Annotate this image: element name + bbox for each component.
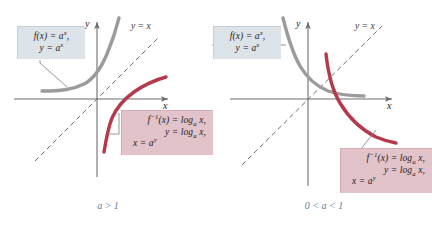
- y-axis-right: [305, 22, 311, 186]
- callout-logarithmic-right: f−1(x) = loga x, y = loga x, x = ay: [340, 148, 432, 193]
- x-axis-left: [14, 96, 168, 102]
- callout-log-line3-right: x = ay: [348, 176, 425, 188]
- panel-a-between-0-and-1: y x y = x f(x) = ax, y = ax f−1(x) = log…: [216, 0, 432, 238]
- callout-log-line1-right: f−1(x) = loga x,: [348, 153, 425, 165]
- exponential-curve-right: [283, 18, 364, 96]
- callout-exponential-right: f(x) = ax, y = ax: [213, 26, 281, 59]
- caption-right: 0 < a < 1: [216, 200, 432, 211]
- leader-line-exp-left: [40, 60, 67, 87]
- callout-exp-line1-right: f(x) = ax,: [221, 31, 274, 43]
- callout-exp-line2-right: y = ax: [221, 43, 274, 55]
- y-axis-label-left: y: [85, 18, 89, 29]
- caption-left: a > 1: [0, 200, 216, 211]
- callout-log-line3-left: x = ay: [129, 138, 206, 150]
- panel-a-greater-than-1: y x y = x f(x) = ax, y = ax f−1(x) = log…: [0, 0, 216, 238]
- callout-exp-line1-left: f(x) = ax,: [25, 31, 78, 43]
- identity-line-label-right: y = x: [355, 21, 375, 31]
- callout-exp-line2-left: y = ax: [25, 43, 78, 55]
- callout-log-line2-left: y = loga x,: [129, 127, 206, 139]
- callout-log-line1-left: f−1(x) = loga x,: [129, 115, 206, 127]
- identity-line-label-left: y = x: [131, 21, 151, 31]
- callout-logarithmic-left: f−1(x) = loga x, y = loga x, x = ay: [121, 110, 213, 155]
- inverse-functions-figure: y x y = x f(x) = ax, y = ax f−1(x) = log…: [0, 0, 432, 238]
- x-axis-label-right: x: [387, 100, 391, 111]
- y-axis-label-right: y: [296, 18, 300, 29]
- callout-log-line2-right: y = loga x,: [348, 165, 425, 177]
- callout-exponential-left: f(x) = ax, y = ax: [17, 26, 85, 59]
